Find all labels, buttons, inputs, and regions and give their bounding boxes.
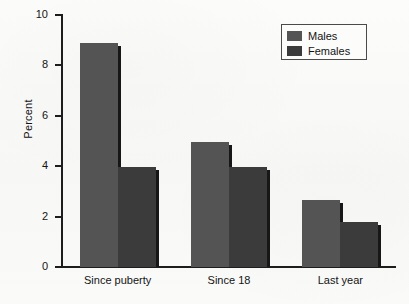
legend-swatch-males [287,31,302,41]
legend-item-females: Females [287,44,350,58]
x-axis-tick-label: Since puberty [84,274,151,286]
x-axis-tick-label: Since 18 [208,274,251,286]
y-axis-tick-mark [55,115,61,117]
chart-figure: Percent 0246810 Since pubertySince 18Las… [0,0,409,304]
y-axis-tick-mark [55,14,61,16]
y-axis-tick-mark [55,216,61,218]
legend-item-males: Males [287,29,337,43]
legend-swatch-females [287,46,302,56]
bar-fill [229,167,267,267]
x-axis-tick-label: Last year [318,274,363,286]
bar-fill [302,200,340,267]
chart-legend: MalesFemales [281,24,367,60]
bar-fill [340,222,378,267]
bar-females-last-year [340,222,378,267]
bar-fill [118,167,156,267]
bar-males-since-18 [191,142,229,267]
bar-females-since-puberty [118,167,156,267]
y-axis-tick-label: 4 [22,160,48,171]
bar-shadow-edge [378,225,381,267]
bar-males-since-puberty [80,43,118,267]
bar-females-since-18 [229,167,267,267]
bar-fill [191,142,229,267]
y-axis-tick-label: 10 [22,9,48,20]
y-axis-tick-label: 0 [22,261,48,272]
y-axis-tick-label: 6 [22,110,48,121]
y-axis-tick-label: 2 [22,211,48,222]
bar-males-last-year [302,200,340,267]
bar-shadow-edge [267,170,270,267]
y-axis-tick-mark [55,266,61,268]
legend-label: Males [308,31,337,42]
y-axis-tick-mark [55,64,61,66]
y-axis-tick-mark [55,165,61,167]
bar-shadow-edge [156,170,159,267]
y-axis-tick-label: 8 [22,59,48,70]
legend-label: Females [308,46,350,57]
bar-fill [80,43,118,267]
